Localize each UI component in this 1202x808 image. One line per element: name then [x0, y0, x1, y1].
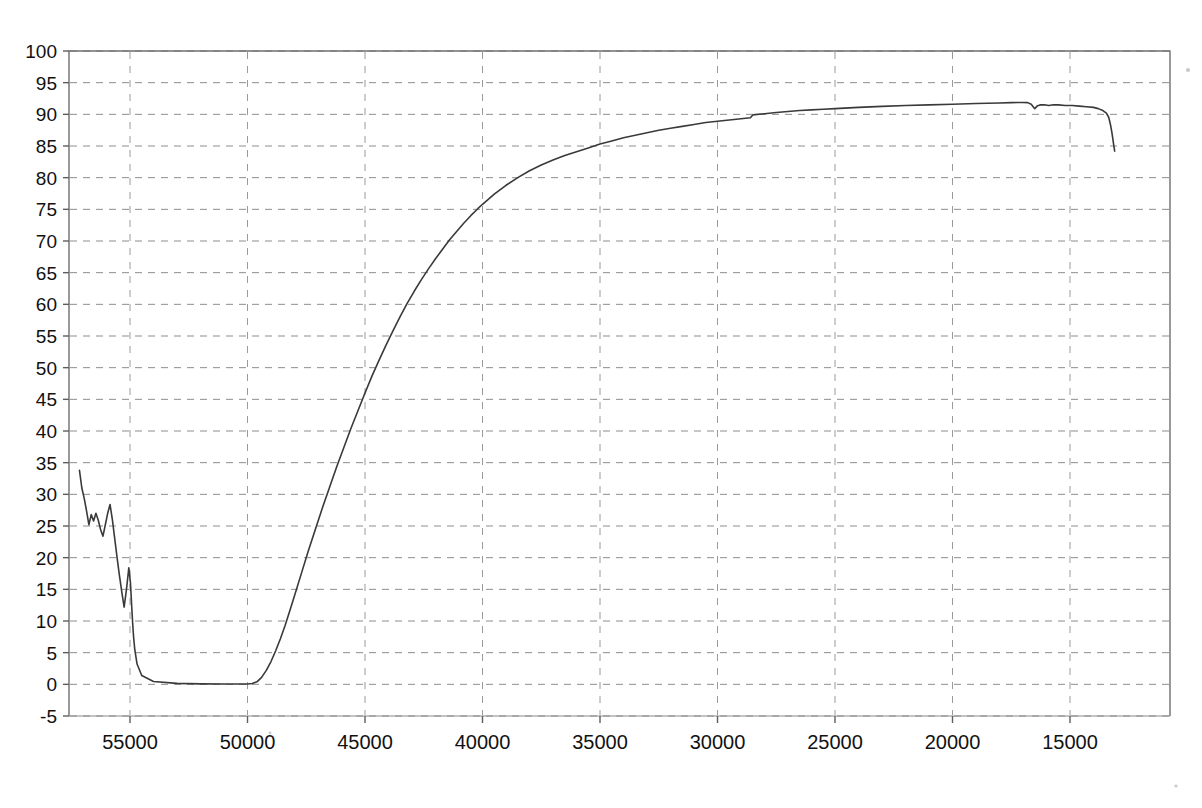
y-tick-label: 25 [36, 516, 57, 537]
x-tick-label: 25000 [807, 731, 863, 753]
y-tick-label: 10 [36, 611, 57, 632]
y-tick-label: 90 [36, 104, 57, 125]
plot-background [0, 0, 1202, 808]
x-tick-label: 50000 [220, 731, 276, 753]
y-tick-label: 15 [36, 579, 57, 600]
x-tick-label: 45000 [337, 731, 393, 753]
y-tick-label: 85 [36, 136, 57, 157]
y-tick-label: 60 [36, 294, 57, 315]
x-axis-labels: 5500050000450004000035000300002500020000… [102, 731, 1098, 753]
y-tick-label: 80 [36, 168, 57, 189]
y-tick-label: 55 [36, 326, 57, 347]
x-tick-label: 15000 [1042, 731, 1098, 753]
y-tick-label: 100 [25, 41, 57, 62]
y-tick-label: 30 [36, 484, 57, 505]
x-tick-label: 40000 [455, 731, 511, 753]
x-tick-label: 55000 [102, 731, 158, 753]
y-tick-label: 75 [36, 199, 57, 220]
y-tick-label: -5 [40, 706, 57, 727]
x-tick-label: 35000 [572, 731, 628, 753]
y-tick-label: 70 [36, 231, 57, 252]
y-tick-label: 40 [36, 421, 57, 442]
y-tick-label: 0 [46, 674, 57, 695]
chart-container: -505101520253035404550556065707580859095… [0, 0, 1202, 808]
y-tick-label: 50 [36, 358, 57, 379]
x-tick-label: 30000 [690, 731, 746, 753]
y-tick-label: 65 [36, 263, 57, 284]
y-tick-label: 95 [36, 73, 57, 94]
x-tick-label: 20000 [925, 731, 981, 753]
y-tick-label: 5 [46, 643, 57, 664]
spectrum-chart: -505101520253035404550556065707580859095… [0, 0, 1202, 808]
y-tick-label: 20 [36, 548, 57, 569]
y-tick-label: 35 [36, 453, 57, 474]
y-tick-label: 45 [36, 389, 57, 410]
